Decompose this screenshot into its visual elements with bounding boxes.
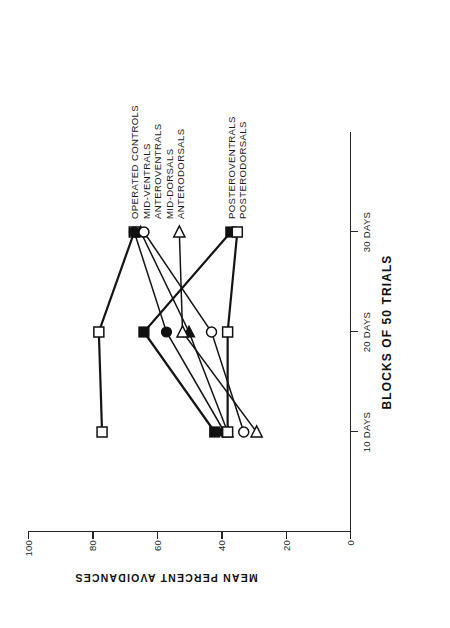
x-axis-tick-label: 10 DAYS <box>361 412 372 452</box>
rotated-figure-stage: 020406080100 10 DAYS20 DAYS30 DAYS OPERA… <box>0 0 450 628</box>
y-axis-tick <box>286 532 287 540</box>
x-axis-title: BLOCKS OF 50 TRIALS <box>380 132 394 532</box>
data-point-marker-open-circle <box>207 327 217 337</box>
data-point-marker-filled-square <box>210 427 220 437</box>
x-axis-tick-label: 20 DAYS <box>361 312 372 352</box>
y-axis-tick <box>28 532 29 540</box>
y-axis-tick <box>350 532 351 540</box>
data-point-marker-open-circle <box>239 427 249 437</box>
data-point-marker-open-square <box>223 427 233 437</box>
series-plot <box>28 132 350 532</box>
y-axis-tick-label: 20 <box>280 540 291 566</box>
data-point-marker-open-square <box>94 327 104 337</box>
data-point-marker-open-square <box>223 327 233 337</box>
series-label: OPERATED CONTROLS <box>129 105 140 219</box>
x-axis-tick <box>350 231 358 232</box>
x-axis-line <box>350 132 351 532</box>
data-point-marker-filled-circle <box>161 327 171 337</box>
x-axis-tick-label: 30 DAYS <box>361 212 372 252</box>
data-point-marker-open-triangle <box>174 226 185 237</box>
data-point-marker-open-square <box>232 227 242 237</box>
series-label: POSTERODORSALS <box>237 121 248 219</box>
y-axis-tick <box>92 532 93 540</box>
data-point-marker-filled-square <box>139 327 149 337</box>
series-label: MID-VENTRALS <box>140 143 151 219</box>
series-label: ANTEROVENTRALS <box>152 123 163 219</box>
x-axis-tick <box>350 431 358 432</box>
y-axis-tick <box>157 532 158 540</box>
data-point-marker-open-square <box>97 427 107 437</box>
x-axis-tick <box>350 331 358 332</box>
y-axis-tick-label: 80 <box>87 540 98 566</box>
y-axis-tick <box>221 532 222 540</box>
y-axis-title: MEAN PERCENT AVOIDANCES <box>56 572 276 584</box>
y-axis-tick-label: 100 <box>23 540 34 566</box>
series-label: POSTEROVENTRALS <box>225 116 236 219</box>
series-label: ANTERODORSALS <box>175 129 186 219</box>
y-axis-tick-label: 60 <box>151 540 162 566</box>
y-axis-tick-label: 0 <box>345 540 356 566</box>
series-label: MID-DORSALS <box>163 149 174 219</box>
data-point-marker-open-circle <box>139 227 149 237</box>
y-axis-tick-label: 40 <box>216 540 227 566</box>
chart-figure: 020406080100 10 DAYS20 DAYS30 DAYS OPERA… <box>0 0 450 628</box>
plot-area: 020406080100 10 DAYS20 DAYS30 DAYS OPERA… <box>28 132 350 532</box>
